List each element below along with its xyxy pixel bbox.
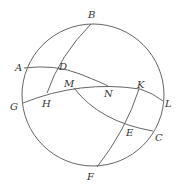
label-B: B — [87, 9, 95, 20]
arc-MC — [74, 88, 153, 131]
label-M: M — [63, 78, 75, 89]
label-D: D — [58, 61, 67, 72]
label-A: A — [14, 62, 22, 73]
label-E: E — [125, 127, 134, 138]
label-F: F — [86, 171, 95, 182]
label-K: K — [136, 79, 145, 90]
label-C: C — [155, 132, 163, 143]
label-H: H — [41, 98, 51, 109]
spherical-diagram: A B C D E F G H K L M N — [0, 0, 180, 189]
label-N: N — [103, 88, 114, 99]
label-G: G — [10, 101, 18, 112]
great-circle — [22, 24, 164, 166]
label-L: L — [164, 98, 172, 109]
